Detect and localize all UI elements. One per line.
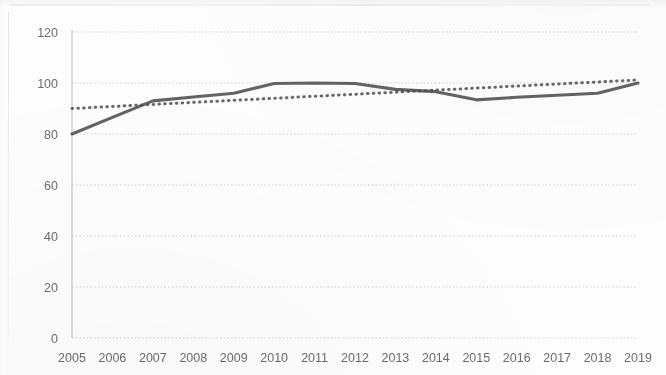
x-tick-label: 2018 xyxy=(584,351,612,365)
y-tick-label: 80 xyxy=(44,128,58,142)
scan-top-smudge xyxy=(10,4,650,6)
gridlines xyxy=(72,32,638,338)
x-tick-label: 2012 xyxy=(341,351,369,365)
x-tick-label: 2014 xyxy=(422,351,450,365)
page-edge-line xyxy=(8,12,9,342)
x-tick-label: 2017 xyxy=(543,351,571,365)
y-tick-label: 0 xyxy=(51,332,58,346)
x-tick-label: 2019 xyxy=(624,351,652,365)
x-tick-label: 2015 xyxy=(462,351,490,365)
y-tick-label: 120 xyxy=(37,26,58,40)
y-tick-labels: 020406080100120 xyxy=(37,26,58,346)
data-series-group xyxy=(72,80,638,134)
x-tick-label: 2010 xyxy=(260,351,288,365)
x-tick-label: 2008 xyxy=(179,351,207,365)
x-tick-label: 2011 xyxy=(301,351,328,365)
chart-canvas: 020406080100120 200520062007200820092010… xyxy=(0,0,666,375)
x-tick-label: 2016 xyxy=(503,351,531,365)
x-tick-labels: 2005200620072008200920102011201220132014… xyxy=(58,351,652,365)
x-tick-label: 2005 xyxy=(58,351,86,365)
line-chart: 020406080100120 200520062007200820092010… xyxy=(0,0,666,375)
y-tick-label: 60 xyxy=(44,179,58,193)
x-tick-label: 2006 xyxy=(99,351,127,365)
y-tick-label: 20 xyxy=(44,281,58,295)
y-tick-label: 40 xyxy=(44,230,58,244)
x-tick-label: 2007 xyxy=(139,351,167,365)
x-tick-label: 2013 xyxy=(382,351,410,365)
y-tick-label: 100 xyxy=(37,77,58,91)
x-tick-label: 2009 xyxy=(220,351,248,365)
series-index xyxy=(72,83,638,134)
